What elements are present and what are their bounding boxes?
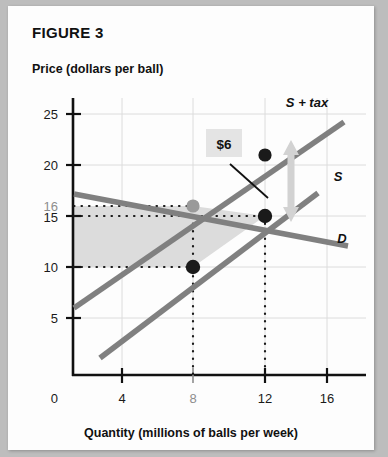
y-tick-label-20: 20 xyxy=(44,158,58,173)
tax-arrow xyxy=(283,140,299,222)
curve-label-supply: S xyxy=(334,169,343,184)
tax-callout: $6 xyxy=(206,129,268,198)
y-tick-label-0: 0 xyxy=(51,391,58,406)
marker-tax-wedge-top xyxy=(258,148,271,161)
x-tick-label-16: 16 xyxy=(320,391,334,406)
curve-label-demand: D xyxy=(337,231,347,246)
figure-card: FIGURE 3 Price (dollars per ball) xyxy=(8,6,374,450)
y-tick-label-10: 10 xyxy=(44,260,58,275)
marker-with-tax-equilibrium xyxy=(186,199,199,212)
supply-demand-chart: $6 S + tax S D 25 20 16 15 10 5 0 4 8 12… xyxy=(8,6,374,450)
x-tick-label-12: 12 xyxy=(258,391,272,406)
marker-no-tax-equilibrium xyxy=(258,209,272,223)
y-tick-label-15: 15 xyxy=(44,210,58,225)
x-axis-title: Quantity (millions of balls per week) xyxy=(8,426,374,440)
callout-label: $6 xyxy=(216,137,232,152)
figure-page: FIGURE 3 Price (dollars per ball) xyxy=(0,0,388,457)
x-tick-label-8: 8 xyxy=(189,391,196,406)
curve-label-supply-plus-tax: S + tax xyxy=(286,95,329,110)
y-tick-label-5: 5 xyxy=(51,311,58,326)
x-tick-label-4: 4 xyxy=(118,391,125,406)
y-tick-label-25: 25 xyxy=(44,107,58,122)
marker-seller-price xyxy=(186,260,200,274)
